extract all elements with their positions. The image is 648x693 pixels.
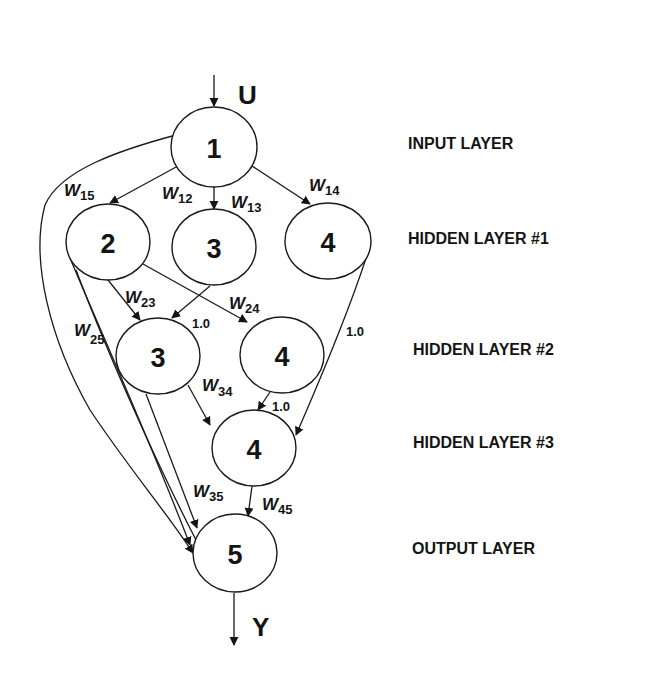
layer-label-hidden3: HIDDEN LAYER #3 [413,434,554,452]
const-3h1-3h2: 1.0 [192,316,210,331]
edge-2-to-5-b [76,270,196,540]
node-hidden1-3: 3 [172,209,256,285]
node-hidden2-3: 3 [116,318,200,394]
layer-label-output: OUTPUT LAYER [412,540,535,558]
weight-w24: W24 [229,294,260,316]
layer-label-hidden2: HIDDEN LAYER #2 [413,341,554,359]
node-hidden1-4: 4 [285,203,371,279]
const-4h2-4h3: 1.0 [272,399,290,414]
weight-w14: W14 [309,176,340,198]
node-input-1: 1 [171,107,257,187]
weight-w35: W35 [193,482,224,504]
output-label-y: Y [252,612,269,642]
node-label: 3 [206,234,221,264]
node-hidden3-4: 4 [212,410,296,486]
node-hidden1-2: 2 [66,204,150,280]
weight-w25: W25 [74,321,105,347]
weight-w12: W12 [162,184,193,206]
node-label: 4 [320,228,335,258]
weight-w15: W15 [64,181,95,203]
node-label: 1 [206,134,221,164]
edge-1-to-4 [252,166,310,204]
weight-w23: W23 [125,288,156,310]
node-label: 5 [227,540,242,570]
layer-label-hidden1: HIDDEN LAYER #1 [408,230,549,248]
layer-label-input: INPUT LAYER [408,135,513,153]
weight-w34: W34 [202,376,233,399]
node-hidden2-4: 4 [240,317,324,393]
node-label: 3 [150,343,165,373]
node-label: 4 [274,342,289,372]
edge-4h2-to-4h3 [258,392,270,410]
weight-w13: W13 [231,193,262,215]
input-label-u: U [238,80,257,110]
weight-w45: W45 [262,495,293,517]
const-4h1-4h3: 1.0 [346,324,364,339]
node-label: 4 [246,435,261,465]
node-label: 2 [100,229,115,259]
edge-3h2-to-5 [146,394,197,528]
edge-4h3-to-5 [248,486,252,516]
node-output-5: 5 [193,514,277,592]
